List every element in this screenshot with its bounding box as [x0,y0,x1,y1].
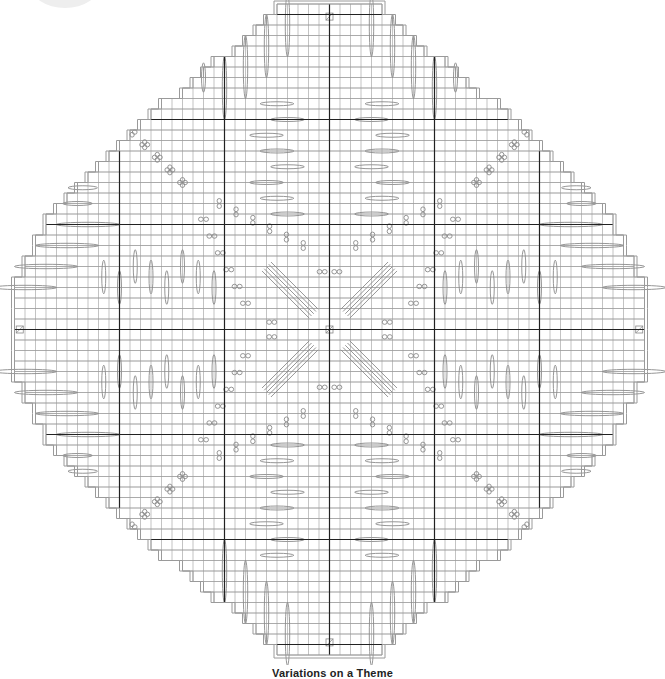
stitch-symbols [0,0,665,665]
stitch-pattern-chart [0,0,665,665]
heavy-grid-lines [15,4,645,655]
chart-title: Variations on a Theme [0,667,665,679]
